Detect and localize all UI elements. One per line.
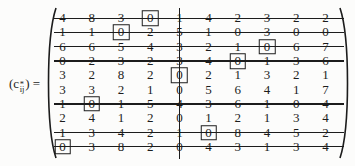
matrix-cell: 4 [264, 84, 271, 96]
matrix-cell: 2 [147, 69, 154, 81]
row-cover-line [54, 146, 344, 147]
matrix-cell: 1 [264, 112, 271, 124]
matrix-cell: 2 [89, 69, 96, 81]
close-paren: ) [25, 76, 29, 91]
matrix-symbol: c [13, 76, 19, 91]
matrix-cell: 7 [322, 84, 329, 96]
matrix-cell: 4 [89, 112, 96, 124]
row-cover-line [54, 132, 344, 133]
subscript-ij: ij [20, 87, 25, 93]
row-cover-line [54, 60, 344, 61]
matrix-cell: 1 [235, 69, 242, 81]
matrix-cell: 3 [89, 84, 96, 96]
matrix-cell: 2 [235, 112, 242, 124]
matrix-cell: 1 [147, 84, 154, 96]
matrix-symbol-scripts: *ij [20, 82, 25, 93]
matrix-cell: 1 [322, 69, 329, 81]
matrix-cell: 1 [293, 84, 300, 96]
matrix-cell: 3 [293, 112, 300, 124]
left-parenthesis [44, 5, 58, 161]
matrix-cell: 2 [205, 69, 212, 81]
row-cover-line [54, 46, 344, 47]
matrix-figure: (c*ij)= 48301423221102510300665432106702… [0, 0, 355, 166]
matrix-cell: 2 [118, 84, 125, 96]
matrix-cell: 2 [59, 112, 66, 124]
matrix-cell: 4 [322, 112, 329, 124]
matrix-cell: 2 [293, 69, 300, 81]
matrix-cell: 3 [59, 84, 66, 96]
row-cover-line [54, 18, 344, 19]
matrix-cell: 3 [264, 69, 271, 81]
matrix-cell: 1 [118, 112, 125, 124]
row-cover-line [54, 32, 344, 33]
matrix-cell: 6 [235, 84, 242, 96]
right-parenthesis [338, 5, 352, 161]
matrix-cell: 1 [205, 112, 212, 124]
column-cover-line [179, 8, 180, 159]
formula-label: (c*ij)= [9, 76, 40, 93]
equals-sign: = [33, 76, 40, 91]
matrix-cell: 3 [59, 69, 66, 81]
matrix-cell: 2 [147, 112, 154, 124]
row-cover-line [54, 103, 344, 104]
matrix-cell: 8 [118, 69, 125, 81]
matrix-cell: 5 [205, 84, 212, 96]
